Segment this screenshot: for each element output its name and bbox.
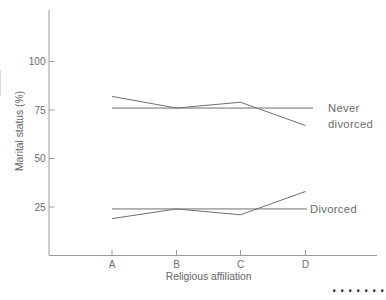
figure: 100755025ABCD NeverdivorcedDivorced Mari… [0, 0, 386, 300]
data-line-divorced [112, 191, 306, 218]
page-dot [333, 290, 335, 292]
chart-canvas: 100755025ABCD NeverdivorcedDivorced Mari… [0, 0, 386, 300]
series-label-never-divorced: Never [328, 102, 360, 114]
x-tick-label: B [173, 259, 180, 270]
x-axis-title: Religious affiliation [166, 271, 252, 282]
y-tick-label: 100 [29, 56, 46, 67]
page-dot [341, 290, 343, 292]
y-tick-label: 75 [34, 105, 46, 116]
x-tick-label: A [109, 259, 116, 270]
screen-edge-artifact [0, 70, 1, 96]
series-label-divorced: Divorced [310, 203, 357, 215]
axes [49, 10, 377, 256]
series-labels: NeverdivorcedDivorced [310, 102, 373, 215]
page-dot [357, 290, 359, 292]
y-tick-label: 25 [34, 202, 46, 213]
data-line-never-divorced [112, 96, 306, 125]
y-axis-title: Marital status (%) [14, 91, 25, 171]
x-tick-label: C [237, 259, 244, 270]
series-label-never-divorced: divorced [328, 118, 373, 130]
page-dot [373, 290, 375, 292]
page-dot [349, 290, 351, 292]
page-dot [365, 290, 367, 292]
page-dots [333, 290, 383, 292]
data-series [112, 96, 313, 218]
y-tick-label: 50 [34, 153, 46, 164]
x-tick-label: D [302, 259, 309, 270]
tick-labels: 100755025ABCD [29, 56, 309, 270]
page-dot [381, 290, 383, 292]
